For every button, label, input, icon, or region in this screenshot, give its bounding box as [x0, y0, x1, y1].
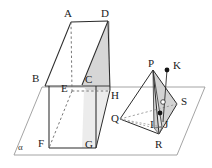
vertex-label-B: B [32, 73, 39, 84]
point-open-circle [161, 100, 166, 105]
point-K-dot [165, 68, 170, 73]
vertex-label-F: F [38, 138, 44, 149]
prism-hidden-edge-AE [71, 22, 72, 91]
vertex-label-I: I [150, 119, 154, 130]
vertex-label-K: K [173, 60, 181, 71]
geometry-figure: A D B C E H F G P K S Q I J R α [0, 0, 212, 168]
plane-label-alpha: α [18, 143, 23, 152]
vertex-label-R: R [155, 139, 162, 150]
vertex-label-A: A [64, 8, 72, 19]
vertex-label-H: H [111, 90, 119, 101]
vertex-label-E: E [61, 83, 68, 94]
vertex-label-C: C [85, 74, 92, 85]
vertex-label-P: P [148, 58, 154, 69]
vertex-label-Q: Q [111, 113, 119, 124]
vertex-label-D: D [101, 8, 109, 19]
vertex-label-G: G [85, 139, 93, 150]
vertex-label-S: S [181, 96, 187, 107]
prism-edge-AB [45, 22, 71, 86]
point-interior-dot [158, 111, 163, 116]
vertex-label-J: J [164, 119, 168, 130]
geometry-canvas [0, 0, 212, 168]
